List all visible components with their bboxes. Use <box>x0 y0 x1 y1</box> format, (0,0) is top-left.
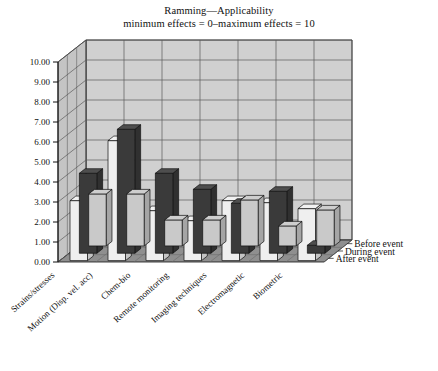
bar-3d <box>203 215 226 246</box>
y-tick-label: 0.00 <box>34 257 50 267</box>
bar-3d <box>165 215 188 246</box>
y-tick-label: 4.00 <box>34 177 50 187</box>
category-label: Chem-bio <box>99 270 133 302</box>
y-tick-label: 5.00 <box>34 157 50 167</box>
y-tick-label: 10.00 <box>30 57 51 67</box>
bar-3d <box>317 205 340 246</box>
y-tick-label: 3.00 <box>34 197 50 207</box>
y-axis <box>53 62 58 262</box>
y-tick-label: 7.00 <box>34 117 50 127</box>
chart-container: Ramming—Applicability minimum effects = … <box>0 0 438 371</box>
y-tick-label: 9.00 <box>34 77 50 87</box>
bar-3d <box>279 221 302 246</box>
bar-3d <box>89 189 112 246</box>
y-tick-label: 1.00 <box>34 237 50 247</box>
y-tick-label: 8.00 <box>34 97 50 107</box>
y-tick-label: 2.00 <box>34 217 50 227</box>
y-tick-label: 6.00 <box>34 137 50 147</box>
series-label-after-event: After event <box>336 254 379 264</box>
category-label: Biometric <box>251 270 284 302</box>
category-label: Motion (Disp. vel. acc) <box>25 270 94 333</box>
category-labels: Strains/stressesMotion (Disp. vel. acc)C… <box>9 270 285 334</box>
bar-3d <box>127 189 150 246</box>
bar-3d <box>241 195 264 246</box>
chart-plot-area: 10.009.008.007.006.005.004.003.002.001.0… <box>0 0 438 371</box>
y-tick-labels: 10.009.008.007.006.005.004.003.002.001.0… <box>30 57 51 267</box>
